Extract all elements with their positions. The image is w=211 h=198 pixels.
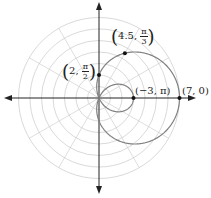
arrow-down-icon	[96, 186, 102, 194]
polar-plot	[0, 0, 211, 198]
point-marker	[97, 73, 101, 77]
point-marker	[132, 96, 136, 100]
arrow-left-icon	[4, 95, 12, 101]
arrow-up-icon	[96, 2, 102, 10]
point-marker	[123, 51, 127, 55]
point-label-neg3-pi: (−3, π)	[135, 86, 170, 96]
polar-diagram: (4.5, π3) (2, π2) (−3, π) (7, 0)	[0, 0, 211, 198]
point-label-7-0: (7, 0)	[182, 86, 209, 96]
point-label-4.5-pi-3: (4.5, π3)	[111, 27, 155, 46]
point-label-2-pi-2: (2, π2)	[62, 62, 96, 81]
point-marker	[178, 96, 182, 100]
